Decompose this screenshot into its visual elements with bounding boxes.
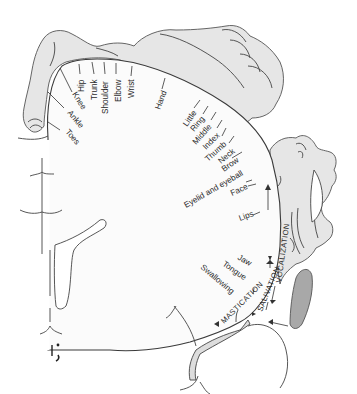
label-shoulder: Shoulder [101, 81, 110, 114]
label-wrist: Wrist [127, 79, 136, 98]
homunculus-diagram: Toes Ankle Knee Hip Trunk Shoulder Elbow… [0, 0, 357, 394]
label-trunk: Trunk [90, 78, 99, 100]
label-hip: Hip [77, 79, 86, 92]
label-elbow: Elbow [114, 80, 123, 102]
